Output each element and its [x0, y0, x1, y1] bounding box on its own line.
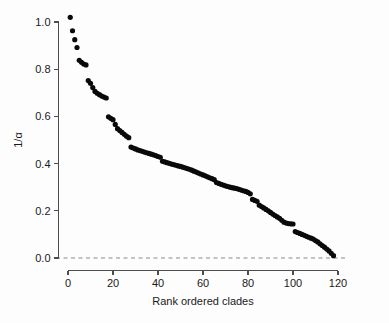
x-tick-label: 120 [329, 277, 347, 289]
y-axis-title: 1/α [12, 132, 24, 148]
x-tick-label: 80 [242, 277, 254, 289]
data-point [126, 135, 131, 140]
data-series-0 [68, 15, 336, 259]
y-tick-label: 0.4 [35, 158, 50, 170]
data-point [83, 62, 88, 67]
y-tick-label: 0.2 [35, 205, 50, 217]
figure-container: 0.00.20.40.60.81.01/α020406080100120Rank… [0, 0, 389, 323]
scatter-plot: 0.00.20.40.60.81.01/α020406080100120Rank… [0, 0, 389, 323]
data-point [248, 191, 253, 196]
y-tick-label: 0.6 [35, 110, 50, 122]
data-point [68, 15, 73, 20]
data-point [104, 95, 109, 100]
x-tick-label: 40 [152, 277, 164, 289]
data-point [70, 28, 75, 33]
x-tick-label: 0 [65, 277, 71, 289]
y-tick-label: 0.8 [35, 63, 50, 75]
data-point [110, 117, 115, 122]
x-tick-label: 20 [107, 277, 119, 289]
data-point [74, 45, 79, 50]
x-tick-label: 60 [197, 277, 209, 289]
data-point [331, 253, 336, 258]
y-tick-label: 1.0 [35, 16, 50, 28]
y-tick-label: 0.0 [35, 252, 50, 264]
data-point [72, 37, 77, 42]
x-tick-label: 100 [284, 277, 302, 289]
data-point [290, 221, 295, 226]
x-axis-title: Rank ordered clades [152, 295, 254, 307]
